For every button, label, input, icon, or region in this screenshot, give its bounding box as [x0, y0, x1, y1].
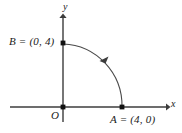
y-axis-arrowhead	[59, 14, 66, 19]
y-axis-label: y	[63, 2, 67, 12]
origin-marker	[61, 105, 66, 110]
arc-direction-arrowhead	[100, 57, 109, 64]
coordinate-plane-figure: B = (0, 4) A = (4, 0) O x y	[0, 0, 182, 133]
x-axis-arrowhead	[166, 103, 171, 110]
point-b-marker	[61, 41, 66, 46]
x-axis-label: x	[171, 99, 175, 109]
point-b-label: B = (0, 4)	[9, 36, 54, 47]
point-a-label: A = (4, 0)	[110, 114, 155, 125]
point-a-marker	[120, 105, 125, 110]
origin-label: O	[51, 110, 59, 121]
quarter-circle-arc	[63, 44, 122, 107]
